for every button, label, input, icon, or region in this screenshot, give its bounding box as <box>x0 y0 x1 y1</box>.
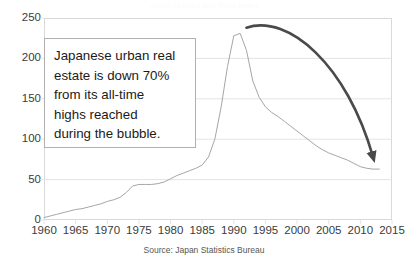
decline-arrow-path <box>246 25 373 157</box>
x-tick-label-1995: 1995 <box>253 225 279 237</box>
callout-line-5: during the bubble. <box>54 124 187 144</box>
callout-annotation-box: Japanese urban real estate is down 70% f… <box>44 38 196 148</box>
callout-line-4: highs reached <box>54 105 187 125</box>
x-tick-label-2015: 2015 <box>379 225 405 237</box>
x-tick-label-1980: 1980 <box>158 225 184 237</box>
callout-line-2: estate is down 70% <box>54 66 187 86</box>
callout-line-1: Japanese urban real <box>54 46 187 66</box>
x-tick-label-2010: 2010 <box>348 225 374 237</box>
x-tick-label-1975: 1975 <box>126 225 152 237</box>
x-tick-label-1970: 1970 <box>94 225 120 237</box>
callout-line-3: from its all-time <box>54 85 187 105</box>
decline-arrow-annotation <box>246 25 373 157</box>
x-tick-label-1990: 1990 <box>221 225 247 237</box>
x-tick-label-2000: 2000 <box>284 225 310 237</box>
x-tick-label-1960: 1960 <box>31 225 57 237</box>
x-tick-label-1965: 1965 <box>63 225 89 237</box>
chart-container: Japan Urban Land Price Index 05010015020… <box>0 0 408 264</box>
x-tick-label-1985: 1985 <box>189 225 215 237</box>
x-tick-label-2005: 2005 <box>316 225 342 237</box>
source-note: Source: Japan Statistics Bureau <box>0 245 408 255</box>
